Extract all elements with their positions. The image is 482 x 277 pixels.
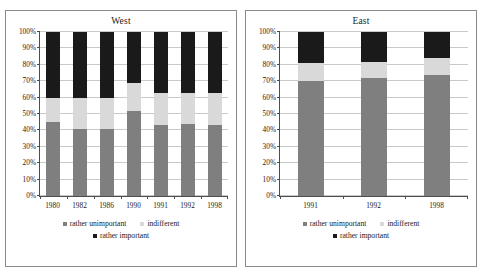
y-axis-tick-label: 70%	[23, 76, 36, 85]
stacked-bar[interactable]	[298, 32, 324, 196]
legend-swatch-unimportant-icon	[303, 222, 307, 226]
bar-segment-unimportant	[424, 75, 450, 196]
y-axis-tick-label: 100%	[259, 27, 276, 36]
legend-west: rather unimportant indifferent rather im…	[6, 219, 236, 240]
legend-row-top: rather unimportant indifferent	[63, 219, 180, 228]
x-axis-tick-label: 1992	[174, 201, 201, 210]
bar-slot	[67, 32, 94, 196]
plot-area-east: 0%10%20%30%40%50%60%70%80%90%100%	[279, 32, 468, 197]
bar-segment-important	[100, 32, 114, 98]
bar-segment-important	[73, 32, 87, 98]
bar-segment-unimportant	[154, 125, 168, 196]
bar-group-east	[280, 32, 468, 196]
legend-row-top: rather unimportant indifferent	[303, 219, 420, 228]
chart-title-east: East	[246, 16, 476, 26]
stacked-bar[interactable]	[154, 32, 168, 196]
legend-swatch-important-icon	[333, 234, 337, 238]
chart-panel-west: West 0%10%20%30%40%50%60%70%80%90%100% 1…	[5, 10, 237, 267]
bar-slot	[405, 32, 468, 196]
y-axis-tick-label: 80%	[263, 59, 276, 68]
legend-row-bottom: rather important	[93, 231, 149, 240]
stacked-bar[interactable]	[208, 32, 222, 196]
x-axis-tick-label: 1980	[39, 201, 66, 210]
y-axis-tick-label: 0%	[26, 191, 36, 200]
legend-entry-important: rather important	[93, 231, 149, 240]
legend-label-indifferent: indifferent	[387, 219, 419, 228]
bar-group-west	[40, 32, 228, 196]
bar-segment-indifferent	[298, 63, 324, 81]
legend-swatch-unimportant-icon	[63, 222, 67, 226]
y-axis-tick-label: 40%	[23, 125, 36, 134]
x-axis-tick-mark	[280, 196, 281, 199]
y-axis-tick-label: 100%	[19, 27, 36, 36]
bar-slot	[174, 32, 201, 196]
legend-label-important: rather important	[100, 231, 149, 240]
bar-segment-indifferent	[154, 93, 168, 126]
legend-swatch-important-icon	[93, 234, 97, 238]
bar-segment-important	[181, 32, 195, 93]
x-axis-tick-mark	[67, 196, 68, 199]
bar-segment-indifferent	[46, 98, 60, 123]
bar-segment-unimportant	[73, 129, 87, 196]
bar-segment-important	[298, 32, 324, 63]
bar-segment-indifferent	[100, 98, 114, 129]
bar-segment-unimportant	[298, 81, 324, 196]
stacked-bar[interactable]	[46, 32, 60, 196]
stacked-bar[interactable]	[424, 32, 450, 196]
bar-segment-indifferent	[424, 58, 450, 74]
chart-page: West 0%10%20%30%40%50%60%70%80%90%100% 1…	[0, 0, 482, 277]
x-axis-tick-mark	[174, 196, 175, 199]
bar-segment-important	[208, 32, 222, 93]
legend-label-unimportant: rather unimportant	[310, 219, 367, 228]
chart-title-west: West	[6, 16, 236, 26]
x-axis-tick-mark	[201, 196, 202, 199]
y-axis-tick-label: 90%	[23, 43, 36, 52]
legend-label-important: rather important	[340, 231, 389, 240]
stacked-bar[interactable]	[361, 32, 387, 196]
x-axis-tick-mark	[121, 196, 122, 199]
legend-entry-unimportant: rather unimportant	[63, 219, 127, 228]
legend-swatch-indifferent-icon	[140, 222, 144, 226]
x-axis-tick-mark	[227, 196, 228, 199]
y-axis-tick-label: 20%	[23, 158, 36, 167]
x-axis-tick-label: 1991	[147, 201, 174, 210]
bar-segment-important	[424, 32, 450, 58]
bar-segment-important	[46, 32, 60, 98]
stacked-bar[interactable]	[181, 32, 195, 196]
bar-segment-unimportant	[100, 129, 114, 196]
x-axis-tick-label: 1982	[66, 201, 93, 210]
y-axis-tick-label: 70%	[263, 76, 276, 85]
stacked-bar[interactable]	[73, 32, 87, 196]
x-axis-tick-label: 1991	[279, 201, 342, 210]
stacked-bar[interactable]	[127, 32, 141, 196]
bar-segment-unimportant	[208, 125, 222, 196]
legend-label-unimportant: rather unimportant	[70, 219, 127, 228]
bar-slot	[280, 32, 343, 196]
stacked-bar[interactable]	[100, 32, 114, 196]
y-axis-tick-label: 40%	[263, 125, 276, 134]
bar-slot	[343, 32, 406, 196]
bar-slot	[94, 32, 121, 196]
legend-entry-unimportant: rather unimportant	[303, 219, 367, 228]
legend-entry-important: rather important	[333, 231, 389, 240]
legend-entry-indifferent: indifferent	[380, 219, 419, 228]
x-axis-tick-mark	[405, 196, 406, 199]
x-axis-tick-mark	[94, 196, 95, 199]
bar-segment-unimportant	[181, 124, 195, 196]
y-axis-tick-label: 50%	[263, 109, 276, 118]
legend-entry-indifferent: indifferent	[140, 219, 179, 228]
x-axis-tick-mark	[40, 196, 41, 199]
y-axis-tick-label: 30%	[263, 141, 276, 150]
bar-segment-indifferent	[208, 93, 222, 126]
bar-segment-indifferent	[181, 93, 195, 124]
x-axis-tick-label: 1998	[405, 201, 468, 210]
plot-area-west: 0%10%20%30%40%50%60%70%80%90%100%	[39, 32, 228, 197]
x-axis-tick-label: 1990	[120, 201, 147, 210]
bar-slot	[121, 32, 148, 196]
x-axis-tick-mark	[343, 196, 344, 199]
bar-segment-indifferent	[361, 62, 387, 78]
y-axis-tick-label: 80%	[23, 59, 36, 68]
bar-segment-indifferent	[73, 98, 87, 129]
x-axis-labels-west: 1980198219861990199119921998	[39, 201, 228, 210]
x-axis-labels-east: 199119921998	[279, 201, 468, 210]
